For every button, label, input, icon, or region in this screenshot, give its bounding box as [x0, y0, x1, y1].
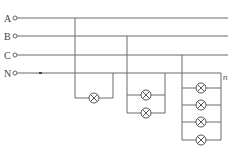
phase-label-a: A [4, 13, 12, 24]
group3-wires [182, 88, 221, 140]
lamp-icon [196, 83, 206, 93]
neutral-marker-icon [39, 72, 42, 74]
lamp-icon [89, 93, 99, 103]
n-label: n [223, 73, 227, 82]
lamp-icon [141, 90, 151, 100]
circuit-svg: A B C N [0, 0, 238, 158]
three-phase-lamp-circuit-diagram: A B C N [0, 0, 238, 158]
terminal-c-icon [13, 53, 17, 57]
terminal-n-icon [13, 71, 17, 75]
phase-label-n: N [4, 68, 11, 79]
terminal-b-icon [13, 34, 17, 38]
phase-label-b: B [4, 31, 11, 42]
lamp-icon [196, 135, 206, 145]
terminal-a-icon [13, 16, 17, 20]
lamp-icon [196, 117, 206, 127]
phase-label-c: C [4, 50, 11, 61]
lamp-icon [141, 108, 151, 118]
lamp-icon [196, 100, 206, 110]
